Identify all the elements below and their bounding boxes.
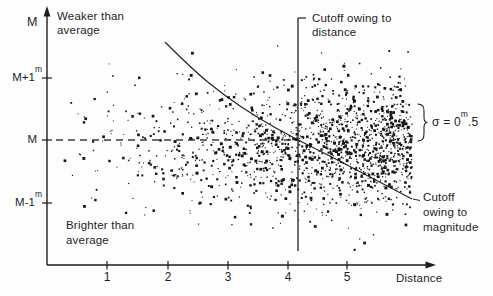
scatter-point <box>343 167 344 168</box>
scatter-point <box>376 157 378 159</box>
scatter-point <box>255 190 257 192</box>
scatter-point <box>326 164 328 166</box>
scatter-point <box>202 145 203 146</box>
scatter-point <box>380 133 382 135</box>
scatter-point <box>383 99 384 100</box>
scatter-point <box>368 173 369 174</box>
scatter-point <box>262 182 264 184</box>
scatter-point <box>325 128 326 129</box>
scatter-point <box>296 147 297 148</box>
scatter-point <box>218 126 220 128</box>
scatter-point <box>389 140 391 142</box>
scatter-point <box>304 107 305 108</box>
scatter-point <box>390 117 392 119</box>
scatter-point <box>295 138 298 141</box>
scatter-point <box>378 132 379 133</box>
scatter-point <box>228 197 230 199</box>
scatter-point <box>343 130 345 132</box>
scatter-point <box>193 153 194 154</box>
scatter-point <box>339 136 342 139</box>
scatter-point <box>373 123 375 125</box>
scatter-point <box>406 162 407 163</box>
scatter-point <box>354 204 356 206</box>
scatter-point <box>380 181 381 182</box>
scatter-point <box>404 186 406 188</box>
scatter-point <box>174 102 175 103</box>
scatter-point <box>196 157 198 159</box>
scatter-point <box>319 115 320 116</box>
scatter-point <box>400 148 401 149</box>
scatter-point <box>263 131 264 132</box>
scatter-point <box>391 170 394 173</box>
scatter-point <box>111 133 112 134</box>
scatter-point <box>336 139 337 140</box>
scatter-point <box>285 212 286 213</box>
scatter-point <box>411 124 412 125</box>
scatter-point <box>314 84 316 86</box>
scatter-point <box>191 52 194 55</box>
scatter-point <box>229 139 231 141</box>
scatter-point <box>318 126 319 127</box>
scatter-point <box>361 127 363 129</box>
scatter-point <box>137 145 140 148</box>
scatter-point <box>290 117 292 119</box>
scatter-point <box>398 82 400 84</box>
scatter-point <box>307 104 308 105</box>
scatter-point <box>234 142 235 143</box>
scatter-point <box>328 162 330 164</box>
scatter-point <box>321 171 322 172</box>
scatter-point <box>338 187 340 189</box>
scatter-point <box>409 191 410 192</box>
scatter-point <box>227 118 229 120</box>
scatter-point <box>288 186 291 189</box>
scatter-point <box>238 159 239 160</box>
scatter-point <box>189 137 192 140</box>
scatter-point <box>141 174 143 176</box>
scatter-point <box>370 165 372 167</box>
scatter-point <box>239 153 240 154</box>
scatter-point <box>391 98 393 100</box>
scatter-point <box>395 165 396 166</box>
scatter-point <box>216 178 218 180</box>
scatter-point <box>348 203 349 204</box>
scatter-point <box>296 137 297 138</box>
scatter-point <box>331 141 332 142</box>
scatter-point <box>250 177 251 178</box>
scatter-point <box>332 149 335 152</box>
scatter-point <box>329 173 331 175</box>
scatter-point <box>296 127 297 128</box>
scatter-point <box>323 145 325 147</box>
scatter-point <box>342 173 344 175</box>
scatter-point <box>249 184 251 186</box>
scatter-point <box>370 162 371 163</box>
scatter-point <box>326 176 328 178</box>
scatter-point <box>403 134 404 135</box>
scatter-point <box>390 76 392 78</box>
scatter-point <box>113 105 114 106</box>
scatter-point <box>174 158 176 160</box>
y-axis-symbol: M <box>27 15 38 29</box>
scatter-point <box>307 99 310 102</box>
scatter-point <box>229 103 232 106</box>
scatter-point <box>291 112 293 114</box>
x-tick-label-3: 3 <box>221 270 235 284</box>
scatter-point <box>345 94 347 96</box>
scatter-point <box>121 145 122 146</box>
scatter-point <box>197 138 198 139</box>
scatter-point <box>354 131 355 132</box>
scatter-point <box>355 137 356 138</box>
scatter-point <box>302 136 304 138</box>
scatter-point <box>273 152 274 153</box>
scatter-point <box>269 160 270 161</box>
scatter-point <box>340 81 343 84</box>
scatter-point <box>224 122 226 124</box>
scatter-point <box>329 122 331 124</box>
scatter-point <box>344 70 345 71</box>
scatter-point <box>275 151 276 152</box>
scatter-point <box>185 164 187 166</box>
scatter-point <box>275 182 277 184</box>
scatter-point <box>284 85 285 86</box>
scatter-point <box>361 181 363 183</box>
scatter-point <box>329 183 331 185</box>
scatter-point <box>382 135 383 136</box>
